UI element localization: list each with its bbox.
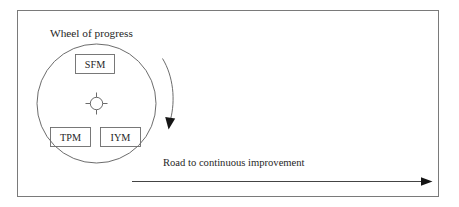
road-arrow xyxy=(132,177,433,186)
wheel-of-progress-diagram: SFM TPM IYM Wheel of progress Road to co… xyxy=(0,0,459,207)
wheel-segment-tpm[interactable]: TPM xyxy=(51,128,91,147)
wheel-hub xyxy=(86,93,108,115)
rotation-arrow-head xyxy=(165,117,175,130)
wheel-segment-iym[interactable]: IYM xyxy=(101,128,141,147)
tpm-label: TPM xyxy=(60,132,81,143)
sfm-label: SFM xyxy=(85,59,105,70)
wheel-segment-sfm[interactable]: SFM xyxy=(76,55,115,74)
road-arrow-head xyxy=(421,177,433,186)
figure-canvas: SFM TPM IYM Wheel of progress Road to co… xyxy=(0,0,459,207)
wheel-rotation-arrow xyxy=(163,59,176,130)
road-label: Road to continuous improvement xyxy=(163,157,305,168)
rotation-arrow-curve xyxy=(163,59,174,120)
iym-label: IYM xyxy=(111,132,131,143)
hub-circle xyxy=(90,97,102,109)
figure-title: Wheel of progress xyxy=(50,27,133,39)
